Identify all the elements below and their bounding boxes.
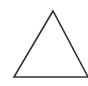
triangle-shape xyxy=(14,11,88,77)
triangle-diagram xyxy=(0,0,88,86)
